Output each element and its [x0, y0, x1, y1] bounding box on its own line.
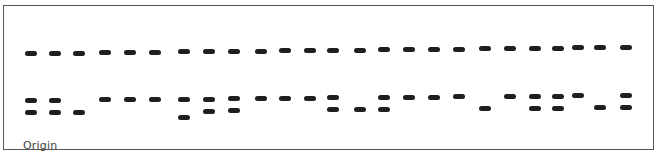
band-lane-8-upper	[203, 97, 215, 102]
origin-label: Origin	[23, 139, 57, 152]
band-lane-8-top	[203, 49, 215, 54]
band-lane-17-upper	[428, 95, 440, 100]
band-lane-15-lower	[378, 107, 390, 112]
band-lane-3-top	[73, 51, 85, 56]
band-lane-2-lower	[49, 110, 61, 115]
band-lane-6-top	[149, 50, 161, 55]
band-lane-14-lower	[354, 107, 366, 112]
band-lane-4-top	[99, 50, 111, 55]
band-lane-21-lower	[529, 106, 541, 111]
band-lane-14-top	[354, 48, 366, 53]
band-lane-12-top	[304, 48, 316, 53]
band-lane-8-lower	[203, 109, 215, 114]
band-lane-19-top	[479, 46, 491, 51]
band-lane-10-upper	[255, 96, 267, 101]
band-lane-5-upper	[124, 97, 136, 102]
band-lane-21-upper	[529, 94, 541, 99]
band-lane-7-lowest	[178, 115, 190, 120]
band-lane-5-top	[124, 50, 136, 55]
band-lane-13-upper	[327, 95, 339, 100]
band-lane-25-top	[620, 45, 632, 50]
band-lane-1-top	[25, 51, 37, 56]
band-lane-18-top	[453, 47, 465, 52]
band-lane-20-upper	[504, 94, 516, 99]
band-lane-6-upper	[149, 97, 161, 102]
band-lane-4-upper	[99, 97, 111, 102]
band-lane-18-upper	[453, 94, 465, 99]
band-lane-23-top	[572, 45, 584, 50]
band-lane-13-top	[327, 48, 339, 53]
band-lane-7-upper	[178, 97, 190, 102]
band-lane-19-lower	[479, 106, 491, 111]
band-lane-24-lower	[594, 105, 606, 110]
band-lane-17-top	[428, 47, 440, 52]
band-lane-20-top	[504, 46, 516, 51]
band-lane-9-lower	[228, 108, 240, 113]
band-lane-9-upper	[228, 96, 240, 101]
band-lane-2-top	[49, 51, 61, 56]
band-lane-16-upper	[403, 95, 415, 100]
band-lane-23-upper	[572, 93, 584, 98]
band-lane-9-top	[228, 49, 240, 54]
band-lane-22-upper	[552, 94, 564, 99]
band-lane-22-lower	[552, 106, 564, 111]
band-lane-15-upper	[378, 95, 390, 100]
band-lane-3-lower	[73, 110, 85, 115]
band-lane-21-top	[529, 46, 541, 51]
band-lane-11-upper	[279, 96, 291, 101]
band-lane-15-top	[378, 47, 390, 52]
band-lane-25-upper	[620, 93, 632, 98]
band-lane-13-lower	[327, 107, 339, 112]
band-lane-12-upper	[304, 96, 316, 101]
band-lane-1-upper	[25, 98, 37, 103]
band-lane-11-top	[279, 48, 291, 53]
band-lane-16-top	[403, 47, 415, 52]
band-lane-24-top	[594, 45, 606, 50]
band-lane-10-top	[255, 49, 267, 54]
band-lane-22-top	[552, 46, 564, 51]
band-lane-7-top	[178, 49, 190, 54]
band-lane-2-upper	[49, 98, 61, 103]
band-lane-25-lower	[620, 105, 632, 110]
band-lane-1-lower	[25, 110, 37, 115]
gel-frame	[3, 5, 654, 150]
